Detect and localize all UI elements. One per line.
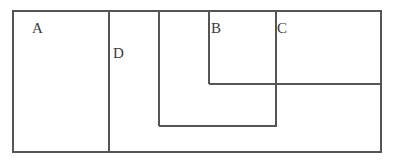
outer-rectangle [13, 11, 381, 152]
region-label-c: C [277, 21, 287, 36]
diagram-canvas: A D B C [0, 0, 395, 162]
region-label-b: B [211, 21, 221, 36]
region-label-d: D [113, 46, 124, 61]
region-label-a: A [32, 21, 43, 36]
region-diagram-svg [0, 0, 395, 162]
